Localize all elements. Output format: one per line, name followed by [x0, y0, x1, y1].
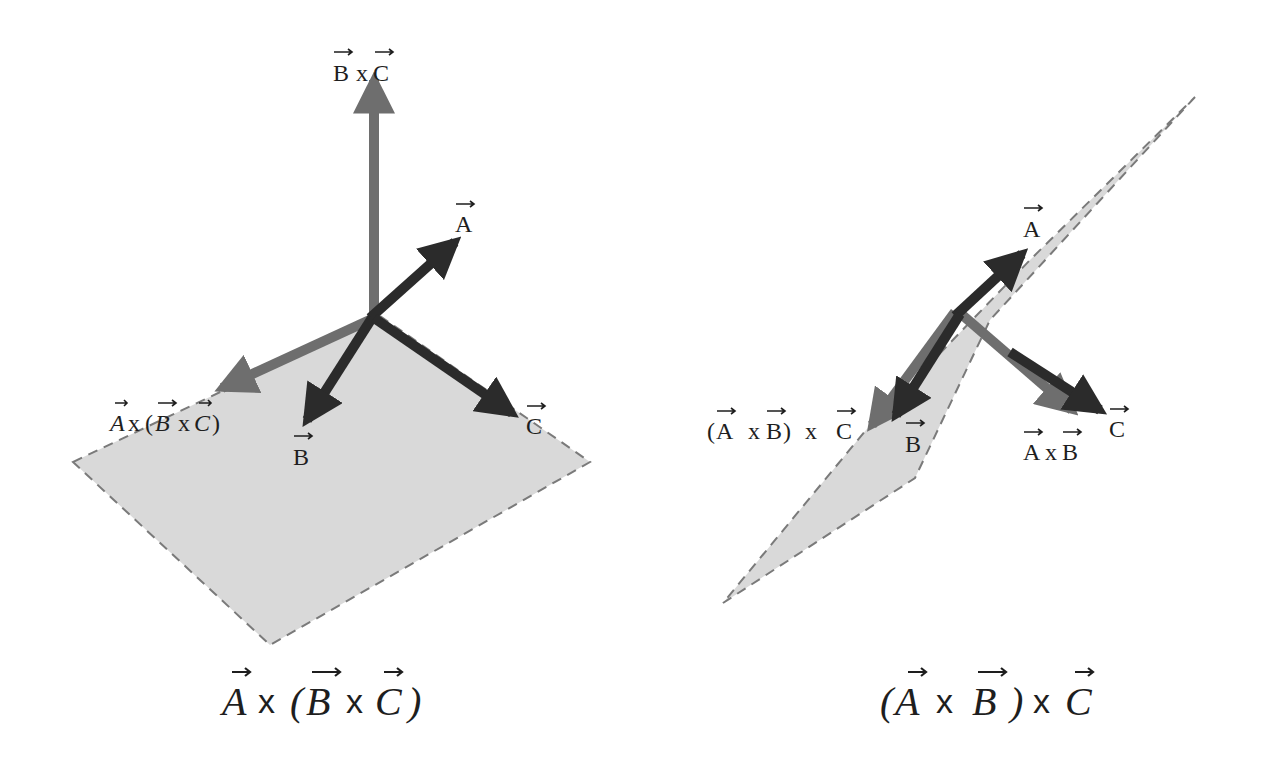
label-a: A — [455, 201, 474, 237]
svg-text:): ) — [212, 410, 220, 436]
svg-text:x: x — [346, 682, 363, 720]
svg-text:): ) — [1008, 679, 1023, 724]
svg-text:(: ( — [290, 679, 306, 724]
svg-text:A: A — [1023, 216, 1041, 242]
svg-text:B: B — [972, 679, 996, 724]
svg-text:B: B — [1062, 439, 1078, 465]
svg-text:(: ( — [707, 418, 715, 444]
svg-text:x: x — [1045, 439, 1057, 465]
svg-text:A: A — [716, 418, 734, 444]
svg-text:C: C — [373, 60, 389, 86]
svg-text:x: x — [128, 410, 140, 436]
vector-triple-product-diagram: B x C A B C A x ( B x C ) — [0, 0, 1268, 768]
svg-text:B: B — [766, 418, 782, 444]
svg-text:C: C — [375, 679, 403, 724]
svg-text:B: B — [905, 431, 921, 457]
svg-text:B: B — [306, 679, 330, 724]
svg-text:C: C — [194, 410, 211, 436]
svg-text:A: A — [455, 211, 473, 237]
svg-text:B: B — [333, 60, 349, 86]
svg-text:A: A — [892, 679, 920, 724]
right-plane — [723, 97, 1195, 603]
svg-text:A: A — [219, 679, 247, 724]
left-caption: A x ( B x C ) — [219, 668, 421, 724]
right-caption: ( A x B ) x C — [880, 668, 1093, 724]
svg-text:): ) — [406, 679, 421, 724]
left-plane — [73, 316, 590, 645]
right-diagram: A B C A x B ( A x B ) x C — [707, 97, 1195, 724]
svg-text:x: x — [258, 682, 275, 720]
label-axb-cross-c: ( A x B ) x C — [707, 408, 855, 444]
svg-text:x: x — [748, 418, 760, 444]
svg-text:C: C — [526, 413, 542, 439]
svg-text:x: x — [936, 682, 953, 720]
svg-text:(: ( — [880, 679, 896, 724]
svg-text:): ) — [783, 418, 791, 444]
svg-text:x: x — [1033, 682, 1050, 720]
svg-text:C: C — [1109, 416, 1125, 442]
svg-text:x: x — [178, 410, 190, 436]
svg-text:C: C — [1065, 679, 1093, 724]
svg-text:C: C — [836, 418, 852, 444]
svg-text:A: A — [108, 410, 125, 436]
svg-text:B: B — [293, 444, 309, 470]
label-a-cross-b: A x B — [1023, 429, 1081, 465]
svg-text:x: x — [805, 418, 817, 444]
arrow-a — [370, 242, 455, 318]
label-b-cross-c: B x C — [333, 49, 393, 86]
label-a-right: A — [1023, 205, 1042, 242]
svg-text:B: B — [155, 410, 170, 436]
svg-text:(: ( — [145, 410, 153, 436]
label-c-right: C — [1109, 406, 1128, 442]
svg-text:A: A — [1023, 439, 1041, 465]
svg-text:x: x — [356, 60, 368, 86]
left-diagram: B x C A B C A x ( B x C ) — [73, 49, 590, 724]
